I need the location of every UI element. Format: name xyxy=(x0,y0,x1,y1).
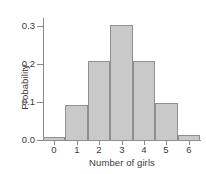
x-axis-tick-label: 0 xyxy=(43,145,65,155)
bar xyxy=(133,61,155,141)
probability-histogram-figure: Probability 0.00.10.20.3 0123456 Number … xyxy=(0,0,206,174)
y-axis-tick-label: 0.1 xyxy=(8,97,35,107)
x-axis-tick-label: 4 xyxy=(133,145,155,155)
x-axis-tick-label: 6 xyxy=(178,145,200,155)
y-axis-tick-label: 0.3 xyxy=(8,21,35,31)
bar xyxy=(65,105,87,141)
x-axis-tick-label: 3 xyxy=(111,145,133,155)
y-axis-tick-label: 0.2 xyxy=(8,59,35,69)
x-axis-tick-label: 2 xyxy=(88,145,110,155)
bar xyxy=(110,25,132,141)
bar xyxy=(88,61,110,141)
x-axis-tick-label: 1 xyxy=(66,145,88,155)
bar xyxy=(155,103,177,141)
bar-group xyxy=(43,18,200,141)
x-axis-title: Number of girls xyxy=(43,157,201,168)
y-axis-tick-label: 0.0 xyxy=(8,135,35,145)
x-axis-tick-label: 5 xyxy=(155,145,177,155)
